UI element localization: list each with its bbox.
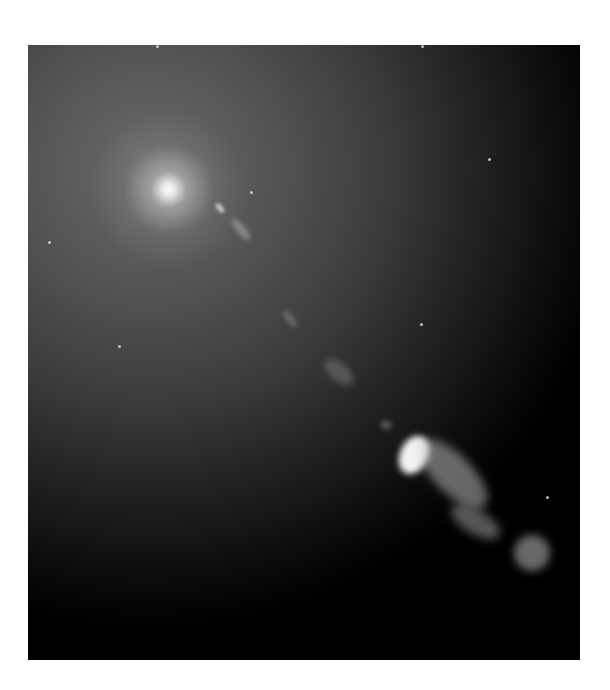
star [421,45,424,48]
jet-knot [320,354,358,390]
star [250,191,253,194]
jet-knot [214,201,226,214]
astronomy-photo [28,45,580,660]
jet-lobe [514,535,550,571]
star [420,323,423,326]
jet-knot [380,420,392,430]
star [48,241,51,244]
jet-knot [281,309,300,330]
star [118,345,121,348]
star [156,45,159,48]
star [488,158,491,161]
jet-knot [229,217,253,243]
star [546,496,549,499]
